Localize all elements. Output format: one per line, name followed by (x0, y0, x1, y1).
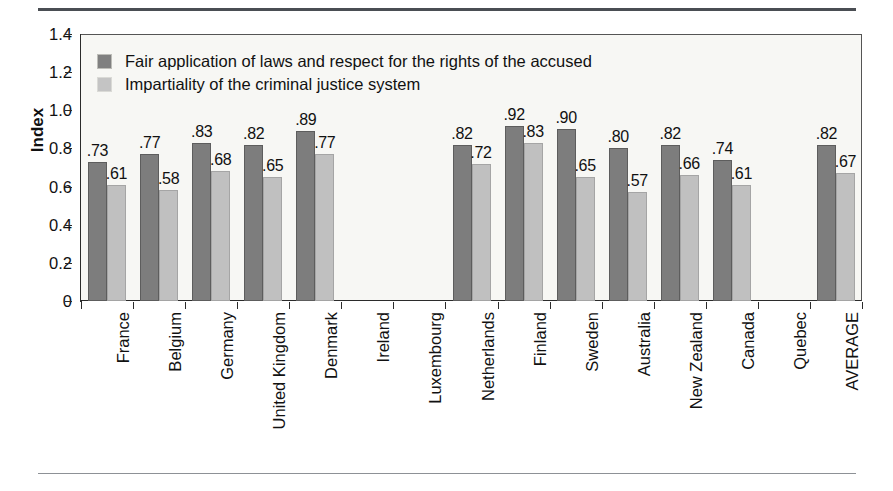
y-axis-tick-labels: 00.20.40.60.81.01.21.4 (30, 0, 72, 491)
y-axis-tick-mark (65, 187, 72, 188)
bar-fair-application (88, 162, 107, 301)
bar-impartiality (524, 143, 543, 301)
x-axis-tick-mark (706, 302, 707, 309)
chart-plot-wrapper: Index 00.20.40.60.81.01.21.4 Fair applic… (0, 0, 893, 491)
bar-impartiality (472, 164, 491, 301)
bar-impartiality (315, 154, 334, 301)
x-axis-category-label: Belgium (166, 312, 185, 372)
bar-fair-application (661, 145, 680, 301)
x-axis-tick-mark (498, 302, 499, 309)
bar-value-label: .82 (451, 125, 472, 143)
bar-impartiality (159, 190, 178, 301)
x-axis-tick-mark (810, 302, 811, 309)
x-axis-tick-mark (289, 302, 290, 309)
bar-fair-application (557, 129, 576, 301)
bar-impartiality (211, 171, 230, 301)
x-axis-tick-mark (758, 302, 759, 309)
x-axis-category-label: Finland (531, 312, 550, 366)
x-axis-tick-mark (185, 302, 186, 309)
bar-value-label: .66 (679, 155, 700, 173)
x-axis-category-label: Canada (739, 312, 758, 370)
x-axis-category-label: Quebec (791, 312, 810, 370)
bar-value-label: .73 (87, 142, 108, 160)
y-axis-tick-mark (65, 110, 72, 111)
y-axis-tick-mark (65, 301, 72, 302)
bar-value-label: .80 (608, 128, 629, 146)
bar-impartiality (680, 175, 699, 301)
bar-value-label: .82 (660, 125, 681, 143)
x-axis-tick-mark (393, 302, 394, 309)
bar-value-label: .68 (210, 151, 231, 169)
bar-fair-application (505, 126, 524, 301)
x-axis-category-label: AVERAGE (843, 312, 862, 391)
x-axis-category-label: Denmark (322, 312, 341, 379)
x-axis-category-label: Australia (635, 312, 654, 376)
bar-impartiality (263, 177, 282, 301)
x-axis-tick-mark (654, 302, 655, 309)
bar-value-label: .92 (503, 106, 524, 124)
x-axis-tick-mark (602, 302, 603, 309)
bar-value-label: .82 (243, 125, 264, 143)
x-axis-tick-mark (133, 302, 134, 309)
bar-value-label: .57 (627, 172, 648, 190)
bar-fair-application (244, 145, 263, 301)
x-axis-category-label: Netherlands (479, 312, 498, 401)
bar-value-label: .74 (712, 140, 733, 158)
bar-impartiality (576, 177, 595, 301)
bar-impartiality (732, 185, 751, 301)
bar-value-label: .90 (555, 109, 576, 127)
x-axis-category-label: United Kingdom (270, 312, 289, 429)
bar-value-label: .83 (191, 123, 212, 141)
bar-value-label: .65 (574, 157, 595, 175)
bar-value-label: .89 (295, 111, 316, 129)
bar-value-label: .82 (816, 125, 837, 143)
x-axis-tick-mark (445, 302, 446, 309)
bar-fair-application (192, 143, 211, 301)
bar-value-label: .72 (470, 144, 491, 162)
x-axis-category-label: Ireland (374, 312, 393, 362)
y-axis-tick-mark (65, 72, 72, 73)
x-axis-tick-mark (550, 302, 551, 309)
x-axis-tick-mark (81, 302, 82, 309)
y-axis-tick-mark (65, 34, 72, 35)
bar-fair-application (713, 160, 732, 301)
x-axis-category-label: Luxembourg (426, 312, 445, 404)
x-axis-tick-mark (862, 302, 863, 309)
bar-value-label: .83 (522, 123, 543, 141)
x-axis-category-label: Sweden (583, 312, 602, 372)
bar-impartiality (107, 185, 126, 301)
bar-fair-application (140, 154, 159, 301)
bar-value-label: .61 (731, 165, 752, 183)
bar-value-label: .65 (262, 157, 283, 175)
bar-fair-application (453, 145, 472, 301)
x-axis-category-label: France (114, 312, 133, 363)
bar-fair-application (609, 148, 628, 301)
bar-value-label: .77 (314, 134, 335, 152)
y-axis-tick-mark (65, 263, 72, 264)
x-axis-category-label: Germany (218, 312, 237, 380)
bar-value-label: .77 (139, 134, 160, 152)
bar-fair-application (817, 145, 836, 301)
x-axis-tick-mark (341, 302, 342, 309)
bars-layer: .73.61.77.58.83.68.82.65.89.77.82.72.92.… (81, 34, 862, 301)
bar-value-label: .67 (835, 153, 856, 171)
y-axis-tick-mark (65, 225, 72, 226)
figure-container: Index 00.20.40.60.81.01.21.4 Fair applic… (0, 0, 893, 491)
x-axis-tick-mark (237, 302, 238, 309)
bar-value-label: .58 (158, 170, 179, 188)
bar-impartiality (628, 192, 647, 301)
y-axis-tick-mark (65, 148, 72, 149)
bar-fair-application (296, 131, 315, 301)
bar-impartiality (836, 173, 855, 301)
x-axis-category-label: New Zealand (687, 312, 706, 409)
bar-value-label: .61 (106, 165, 127, 183)
